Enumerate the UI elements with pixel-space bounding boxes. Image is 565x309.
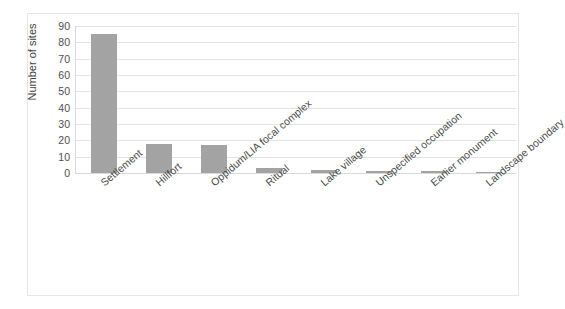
gridline-60 [76,75,516,76]
y-tick-label-60: 60 [48,70,70,80]
gridline-0 [76,173,516,174]
y-tick-label-80: 80 [48,37,70,47]
gridline-30 [76,124,516,125]
y-tick-label-10: 10 [48,152,70,162]
y-tick-label-70: 70 [48,54,70,64]
gridline-20 [76,140,516,141]
gridline-50 [76,91,516,92]
bar[interactable] [256,168,282,173]
caption-remnant [62,0,242,7]
y-tick-label-50: 50 [48,86,70,96]
bar[interactable] [146,144,172,173]
y-axis-title: Number of sites [26,2,38,122]
bar[interactable] [91,34,117,173]
gridline-80 [76,42,516,43]
gridline-40 [76,108,516,109]
bar[interactable] [421,171,447,173]
gridline-70 [76,59,516,60]
bar[interactable] [476,172,502,174]
y-tick-label-0: 0 [48,168,70,178]
y-tick-label-40: 40 [48,103,70,113]
bar[interactable] [201,145,227,173]
bar[interactable] [366,171,392,173]
y-axis-tick-labels: 9080706050403020100 [44,26,70,173]
gridline-90 [76,26,516,27]
y-tick-label-90: 90 [48,21,70,31]
y-tick-label-20: 20 [48,135,70,145]
gridline-10 [76,157,516,158]
plot-area [76,26,516,173]
y-tick-label-30: 30 [48,119,70,129]
bar[interactable] [311,170,337,173]
